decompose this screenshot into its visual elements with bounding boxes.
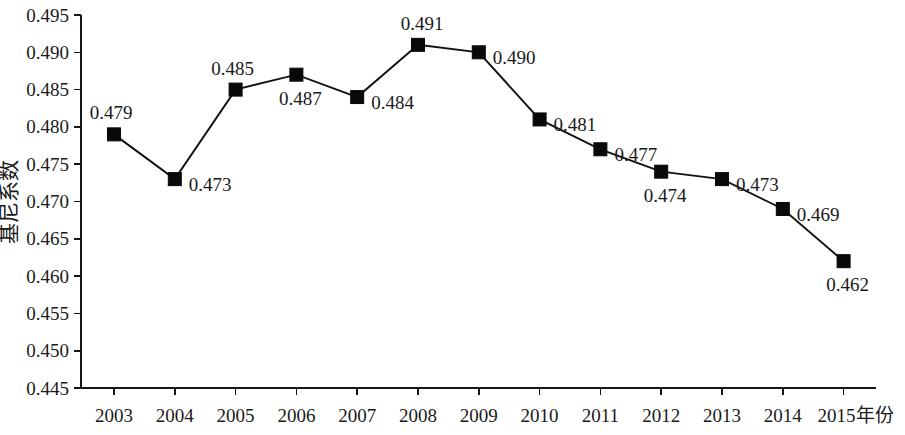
- gini-coefficient-line-chart: 0.4950.4900.4850.4800.4750.4700.4650.460…: [0, 0, 905, 435]
- x-tick-label: 2015年份: [818, 405, 894, 426]
- data-point-marker: [837, 255, 850, 268]
- y-tick-label: 0.450: [26, 340, 69, 361]
- data-point-label: 0.477: [614, 144, 657, 165]
- data-point-label: 0.491: [401, 13, 444, 34]
- y-tick-label: 0.495: [26, 5, 69, 26]
- axis-lines: [81, 15, 876, 388]
- x-tick-label: 2010: [521, 405, 559, 426]
- x-tick-label: 2007: [338, 405, 376, 426]
- data-point-label: 0.484: [371, 92, 414, 113]
- chart-canvas: 0.4950.4900.4850.4800.4750.4700.4650.460…: [0, 0, 905, 435]
- data-point-label: 0.490: [493, 47, 536, 68]
- data-point-marker: [533, 113, 546, 126]
- data-point-marker: [351, 91, 364, 104]
- x-tick-label: 2003: [95, 405, 133, 426]
- y-tick-label: 0.455: [26, 303, 69, 324]
- y-tick-label: 0.460: [26, 266, 69, 287]
- y-axis-title-label: 基尼系数: [0, 160, 20, 244]
- data-point-label: 0.485: [211, 58, 254, 79]
- x-axis: 2003200420052006200720082009201020112012…: [95, 388, 894, 426]
- y-tick-label: 0.465: [26, 228, 69, 249]
- y-axis: 0.4950.4900.4850.4800.4750.4700.4650.460…: [26, 5, 81, 399]
- data-point-label: 0.481: [554, 114, 597, 135]
- y-tick-label: 0.485: [26, 79, 69, 100]
- y-axis-title: 基尼系数: [0, 160, 20, 244]
- x-tick-label: 2013: [703, 405, 741, 426]
- data-point-marker: [108, 128, 121, 141]
- data-point-marker: [472, 46, 485, 59]
- data-point-label: 0.462: [826, 274, 869, 295]
- data-point-marker: [229, 83, 242, 96]
- y-tick-label: 0.470: [26, 191, 69, 212]
- y-tick-label: 0.490: [26, 42, 69, 63]
- data-point-label: 0.473: [736, 174, 779, 195]
- axis-spine: [81, 15, 876, 388]
- data-point-marker: [290, 68, 303, 81]
- data-point-label: 0.473: [189, 174, 232, 195]
- data-point-marker: [412, 38, 425, 51]
- data-point-label: 0.474: [644, 185, 687, 206]
- data-point-label: 0.479: [90, 102, 133, 123]
- x-tick-label: 2008: [399, 405, 437, 426]
- data-point-marker: [594, 143, 607, 156]
- y-tick-label: 0.480: [26, 116, 69, 137]
- x-tick-label: 2014: [764, 405, 803, 426]
- data-point-label: 0.469: [797, 204, 840, 225]
- data-point-marker: [776, 202, 789, 215]
- x-tick-label: 2011: [582, 405, 619, 426]
- x-tick-label: 2004: [156, 405, 195, 426]
- x-tick-label: 2012: [642, 405, 680, 426]
- y-tick-label: 0.445: [26, 378, 69, 399]
- data-point-marker: [168, 173, 181, 186]
- x-tick-label: 2006: [277, 405, 315, 426]
- y-tick-label: 0.475: [26, 154, 69, 175]
- x-tick-label: 2009: [460, 405, 498, 426]
- x-tick-label: 2005: [217, 405, 255, 426]
- data-point-marker: [716, 173, 729, 186]
- data-point-label: 0.487: [279, 88, 322, 109]
- data-point-marker: [655, 165, 668, 178]
